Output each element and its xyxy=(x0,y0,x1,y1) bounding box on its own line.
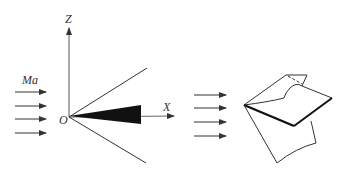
origin-label: O xyxy=(59,113,68,127)
wedge-body xyxy=(69,105,141,124)
dashed-hidden-edge xyxy=(288,76,302,84)
z-axis-label: Z xyxy=(65,12,72,26)
x-axis-label: X xyxy=(162,100,171,114)
flow-arrows-right xyxy=(194,95,226,136)
upper-surface-edge xyxy=(302,86,332,98)
lower-shock-line xyxy=(69,117,146,163)
wedge-trailing-edge xyxy=(294,98,332,126)
wedge-leading-edge xyxy=(244,105,294,126)
flow-arrows-left xyxy=(15,92,46,133)
right-diagram xyxy=(194,75,332,163)
left-diagram: Z X O Ma xyxy=(15,12,174,163)
mach-label: Ma xyxy=(21,73,38,87)
upper-shock-surface xyxy=(244,75,307,105)
lower-shock-surface xyxy=(244,105,316,163)
diagram-canvas: Z X O Ma xyxy=(0,0,348,176)
